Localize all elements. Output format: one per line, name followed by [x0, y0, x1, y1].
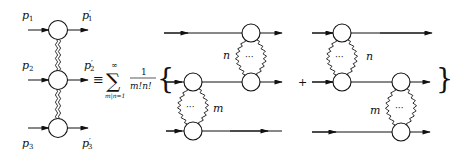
blob-vertex-1 [49, 21, 68, 40]
left-diagram: p1 p′1 p2 p′2 p3 p′3 [22, 8, 94, 151]
blob-b-mid-right [392, 73, 410, 91]
blob-a-mid-left [184, 73, 202, 91]
label-p1-prime: p′1 [82, 8, 92, 23]
exchange-ladder-23 [55, 90, 57, 119]
dots-n: ··· [245, 52, 254, 62]
ladder-n-right [347, 40, 357, 75]
blob-a-top [242, 24, 260, 42]
label-p2-prime: p′2 [84, 58, 94, 73]
blob-a-mid-right [242, 73, 260, 91]
equiv-sign: ≡ [93, 72, 104, 87]
blob-b-mid-left [333, 73, 351, 91]
exchange-ladder-12 [55, 40, 57, 71]
blob-b-bottom [392, 123, 410, 141]
label-m: m [370, 104, 380, 117]
ladder-m-right [198, 89, 208, 124]
label-p3-prime: p′3 [82, 136, 92, 151]
label-m: m [213, 102, 223, 115]
exchange-ladder-12b [58, 40, 60, 71]
blob-b-top [333, 24, 351, 42]
sum-lower-limit: m|n=1 [105, 92, 125, 100]
open-brace: { [157, 63, 174, 94]
fraction-denominator: m!n! [130, 81, 152, 91]
diagram-b: ··· ··· n m [312, 24, 432, 141]
plus-sign: + [298, 76, 307, 89]
label-n: n [223, 49, 230, 62]
close-brace: } [436, 63, 453, 94]
label-p2: p2 [22, 59, 34, 73]
label-n: n [366, 50, 373, 63]
label-p1: p1 [22, 9, 34, 23]
fraction-numerator: 1 [141, 67, 147, 77]
feynman-diagram-equation: p1 p′1 p2 p′2 p3 p′3 ≡ ∑ ∞ m|n=1 1 m!n! … [0, 0, 464, 154]
dots-n: ··· [335, 52, 344, 62]
sum-upper-limit: ∞ [111, 61, 118, 70]
exchange-ladder-23b [58, 90, 60, 119]
blob-a-bottom [184, 122, 202, 140]
ladder-n-right [256, 40, 266, 75]
sum-sign: ∑ [106, 69, 121, 93]
dots-m: ··· [395, 103, 404, 113]
blob-vertex-2 [49, 71, 68, 90]
label-p3: p3 [22, 137, 34, 151]
ladder-m-right [406, 89, 416, 125]
blob-vertex-3 [49, 119, 68, 138]
dots-m: ··· [186, 102, 195, 112]
diagram-a: ··· ··· n m [164, 24, 282, 140]
